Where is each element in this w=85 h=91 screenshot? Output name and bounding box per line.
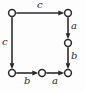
edge-bottom-left-b-arrowhead: [32, 71, 38, 76]
edge-left-c: [10, 17, 15, 69]
edge-label-right-upper-a: a: [71, 21, 77, 31]
node-bottom-right[interactable]: [65, 70, 72, 77]
edge-label-bottom-left-b: b: [24, 76, 30, 86]
edge-label-top-c: c: [37, 0, 43, 10]
edge-left-c-arrowhead: [10, 63, 15, 69]
edge-label-left-c: c: [2, 37, 8, 47]
node-bottom-mid[interactable]: [39, 70, 46, 77]
edge-label-bottom-right-a: a: [52, 76, 58, 86]
edge-right-upper-a-arrowhead: [66, 33, 71, 39]
node-mid-right[interactable]: [65, 40, 72, 47]
edge-bottom-right-a-arrowhead: [58, 71, 64, 76]
edge-right-upper-a: [66, 17, 71, 39]
diagram-canvas: [0, 0, 85, 91]
edge-right-lower-b-arrowhead: [66, 63, 71, 69]
node-top-left[interactable]: [9, 10, 16, 17]
edge-right-lower-b: [66, 47, 71, 69]
transition-diagram: c c a b b a: [0, 0, 85, 91]
edge-label-right-lower-b: b: [71, 51, 77, 61]
node-top-right[interactable]: [65, 10, 72, 17]
edge-top-c: [16, 11, 64, 16]
node-bottom-left[interactable]: [9, 70, 16, 77]
edge-top-c-arrowhead: [58, 11, 64, 16]
